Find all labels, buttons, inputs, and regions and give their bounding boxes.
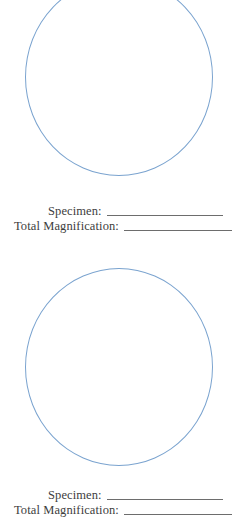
- specimen-label-2: Specimen:: [14, 489, 102, 502]
- magnification-row-2: Total Magnification:: [0, 502, 243, 517]
- magnification-label-2: Total Magnification:: [14, 504, 119, 517]
- specimen-label-1: Specimen:: [14, 205, 102, 218]
- specimen-row-1: Specimen:: [0, 203, 243, 218]
- worksheet-page: Specimen: Total Magnification: Specimen:…: [0, 0, 243, 530]
- field-of-view-circle-1: [25, 0, 213, 176]
- magnification-answer-line-2[interactable]: [124, 514, 232, 515]
- specimen-answer-line-1[interactable]: [107, 215, 223, 216]
- magnification-label-1: Total Magnification:: [14, 220, 119, 233]
- specimen-row-2: Specimen:: [0, 487, 243, 502]
- magnification-answer-line-1[interactable]: [124, 230, 232, 231]
- label-group-1: Specimen: Total Magnification:: [0, 203, 243, 233]
- magnification-row-1: Total Magnification:: [0, 218, 243, 233]
- field-of-view-circle-2: [25, 268, 213, 466]
- label-group-2: Specimen: Total Magnification:: [0, 487, 243, 517]
- specimen-answer-line-2[interactable]: [107, 499, 223, 500]
